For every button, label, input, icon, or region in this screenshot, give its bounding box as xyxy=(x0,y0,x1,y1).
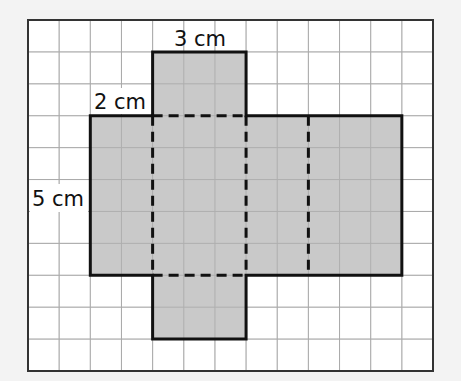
cuboid-net-diagram: 3 cm 2 cm 5 cm xyxy=(0,0,461,381)
label-side-width: 2 cm xyxy=(94,90,146,114)
label-top-width: 3 cm xyxy=(174,27,226,51)
face-front-face xyxy=(153,116,246,276)
diagram-stage: 3 cm 2 cm 5 cm xyxy=(0,0,461,381)
label-height: 5 cm xyxy=(32,187,84,211)
face-back-face xyxy=(308,116,401,276)
